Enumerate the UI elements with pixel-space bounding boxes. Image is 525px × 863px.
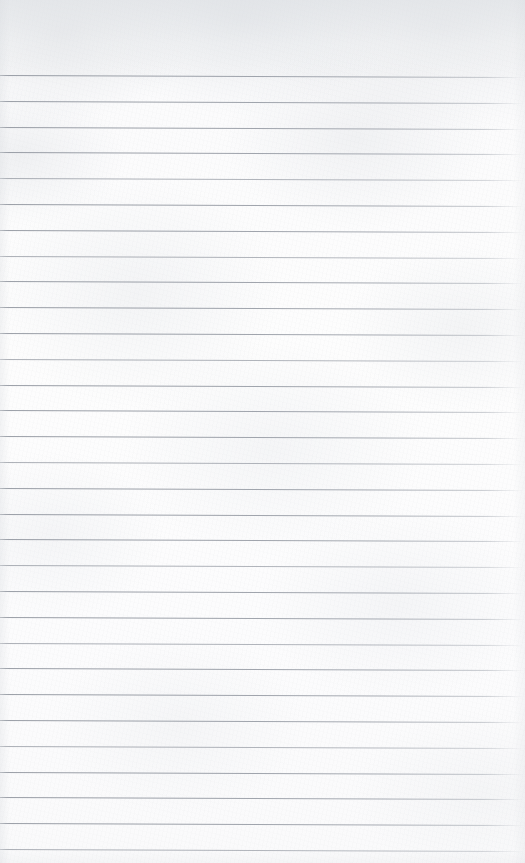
scanned-page (0, 0, 525, 863)
paper-background (0, 0, 525, 863)
